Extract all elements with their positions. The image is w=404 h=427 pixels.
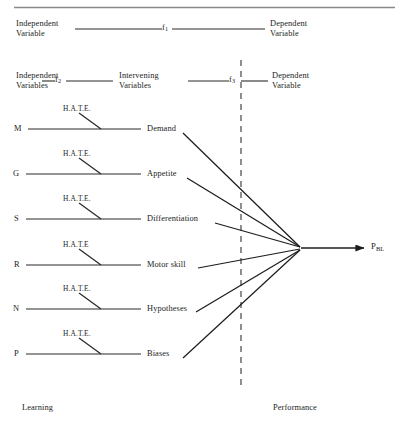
target-label-demand: Demand <box>147 124 176 134</box>
zone-label-performance: Performance <box>273 403 317 413</box>
moderator-label-1: H.A.T.E. <box>63 104 91 114</box>
moderator-tick-2 <box>79 158 101 174</box>
f3-function-subscript: 3 <box>232 77 235 84</box>
moderator-tick-1 <box>79 113 101 129</box>
converge-line-6 <box>183 250 300 358</box>
moderator-label-4: H.A.T.E <box>63 240 89 250</box>
source-label-s: S <box>14 214 19 224</box>
f2-independent-variables-label: Independent Variables <box>16 71 59 90</box>
intervening-variables-label: Intervening Variables <box>119 71 159 90</box>
moderator-label-6: H.A.T.E. <box>63 329 91 339</box>
source-label-n: N <box>13 304 19 314</box>
moderator-tick-6 <box>79 338 101 354</box>
target-label-biases: Biases <box>147 349 169 359</box>
target-label-differentiation: Differentiation <box>147 214 198 224</box>
figure-page: Independent Variable f1 Dependent Variab… <box>0 0 404 427</box>
outcome-subscript: BL <box>376 245 384 252</box>
moderator-tick-4 <box>79 249 101 265</box>
outcome-label-pbl: PBL <box>371 242 384 253</box>
f1-independent-variable-label: Independent Variable <box>16 19 59 38</box>
f2-function-label: f2 <box>55 75 61 86</box>
moderator-label-3: H.A.T.E. <box>63 194 91 204</box>
source-label-r: R <box>14 260 20 270</box>
source-label-m: M <box>14 124 22 134</box>
f2-function-subscript: 2 <box>58 77 61 84</box>
moderator-tick-5 <box>79 293 101 309</box>
target-label-motor-skill: Motor skill <box>147 260 186 270</box>
diagram-canvas <box>0 0 404 427</box>
moderator-label-5: H.A.T.E. <box>63 284 91 294</box>
moderator-tick-3 <box>79 203 101 219</box>
converge-line-2 <box>187 178 300 247</box>
target-label-hypotheses: Hypotheses <box>147 304 187 314</box>
moderator-label-2: H.A.T.E. <box>63 149 91 159</box>
source-label-g: G <box>13 169 19 179</box>
f3-dependent-variable-label: Dependent Variable <box>272 71 309 90</box>
f1-dependent-variable-label: Dependent Variable <box>270 19 307 38</box>
f1-function-label: f1 <box>162 23 168 34</box>
source-label-p: P <box>14 349 19 359</box>
target-label-appetite: Appetite <box>147 169 177 179</box>
zone-label-learning: Learning <box>22 403 53 413</box>
f3-function-label: f3 <box>229 75 235 86</box>
f1-function-subscript: 1 <box>165 25 168 32</box>
